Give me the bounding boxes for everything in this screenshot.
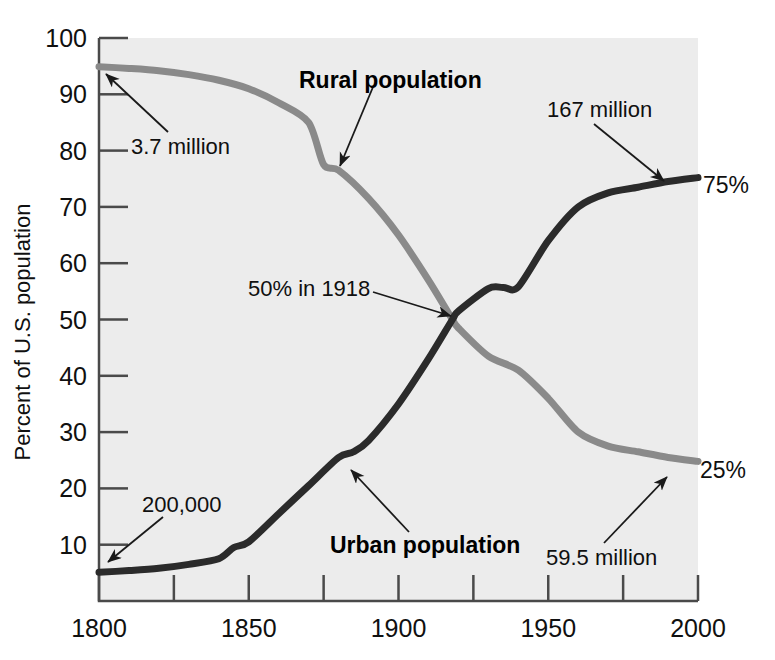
x-tick-label: 1950 [520, 614, 576, 642]
y-tick-label: 40 [59, 362, 87, 390]
urban-rural-population-line-chart: 102030405060708090100 180018501900195020… [0, 0, 775, 660]
urban-series-label: Urban population [330, 532, 520, 558]
x-tick-label: 2000 [670, 614, 726, 642]
x-tick-label: 1900 [371, 614, 427, 642]
urban-end-value-label: 167 million [547, 97, 652, 122]
rural-series-label: Rural population [299, 67, 482, 93]
y-tick-label: 80 [59, 137, 87, 165]
y-tick-label: 100 [45, 24, 87, 52]
rural-end-percent-label: 25% [700, 457, 746, 483]
y-tick-label: 20 [59, 474, 87, 502]
y-tick-label: 70 [59, 193, 87, 221]
y-tick-label: 30 [59, 418, 87, 446]
y-tick-label: 50 [59, 306, 87, 334]
rural-end-value-label: 59.5 million [546, 545, 657, 570]
urban-end-percent-label: 75% [703, 172, 749, 198]
urban-start-value-label: 200,000 [142, 492, 222, 517]
y-tick-label: 90 [59, 80, 87, 108]
x-axis-tick-labels: 18001850190019502000 [71, 614, 726, 642]
x-tick-label: 1850 [221, 614, 277, 642]
y-tick-label: 10 [59, 531, 87, 559]
y-axis-title: Percent of U.S. population [10, 204, 35, 461]
y-tick-label: 60 [59, 249, 87, 277]
rural-start-value-label: 3.7 million [131, 134, 230, 159]
y-axis-tick-labels: 102030405060708090100 [45, 24, 87, 559]
x-tick-label: 1800 [71, 614, 127, 642]
crossover-value-label: 50% in 1918 [248, 276, 370, 301]
chart-figure: 102030405060708090100 180018501900195020… [0, 0, 775, 660]
